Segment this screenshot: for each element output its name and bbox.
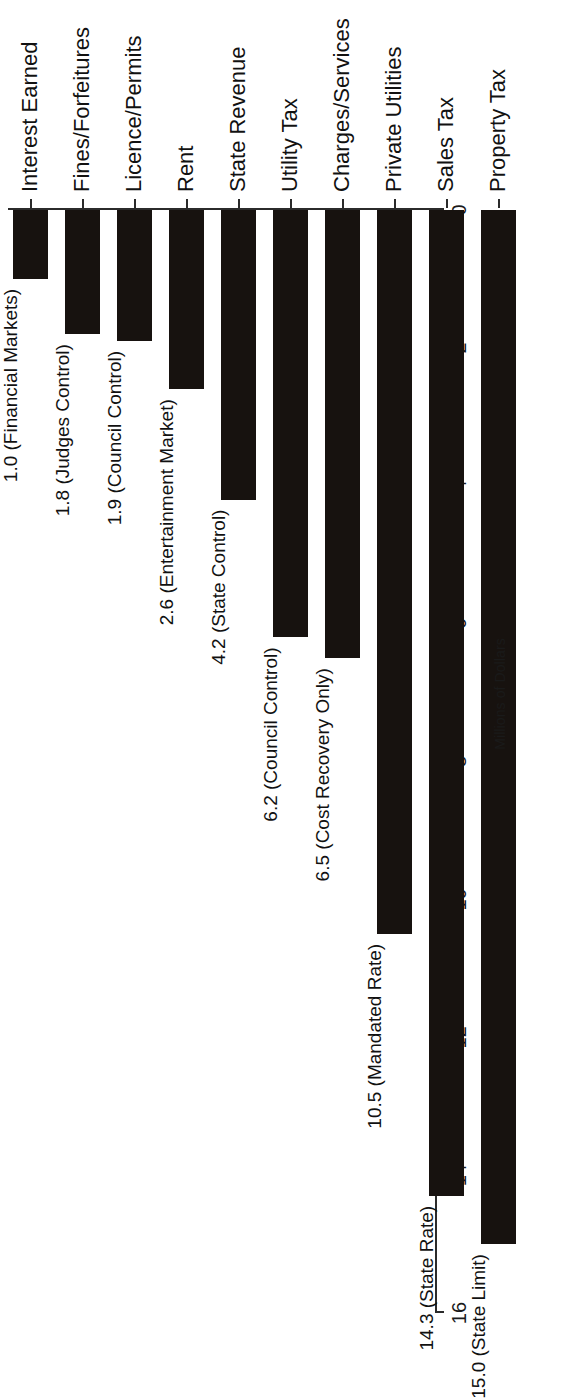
bar [169, 210, 204, 389]
bar-value-label: 14.3 (State Rate) [416, 1206, 435, 1351]
value-axis-title: Millions of Dollars [492, 0, 508, 1388]
category-label: Private Utilities [383, 47, 405, 192]
bar [429, 210, 464, 1196]
category-label: Licence/Permits [123, 35, 145, 192]
category-tick [186, 199, 188, 208]
bar-value-label: 2.6 (Entertainment Market) [156, 399, 175, 625]
value-tick [435, 1312, 444, 1314]
bar [377, 210, 412, 934]
bar [13, 210, 48, 279]
bar [65, 210, 100, 334]
bar [117, 210, 152, 341]
bar-value-label: 1.8 (Judges Control) [52, 344, 71, 516]
category-label: Rent [175, 146, 197, 192]
bar [273, 210, 308, 637]
category-label: Charges/Services [331, 18, 353, 192]
category-tick [134, 199, 136, 208]
category-tick [238, 199, 240, 208]
bar-value-label: 10.5 (Mandated Rate) [364, 944, 383, 1129]
category-tick [446, 199, 448, 208]
category-label: Fines/Forfeitures [71, 27, 93, 192]
bar-value-label: 4.2 (State Control) [208, 510, 227, 665]
category-label: Utility Tax [279, 98, 301, 192]
category-label: Sales Tax [435, 97, 457, 192]
bar-value-label: 15.0 (State Limit) [468, 1254, 487, 1399]
bar-value-label: 6.5 (Cost Recovery Only) [312, 668, 331, 881]
category-tick [394, 199, 396, 208]
bar [221, 210, 256, 500]
bar-value-label: 6.2 (Council Control) [260, 647, 279, 821]
bar [325, 210, 360, 658]
category-tick [82, 199, 84, 208]
bar-value-label: 1.0 (Financial Markets) [0, 289, 19, 482]
bar-value-label: 1.9 (Council Control) [104, 351, 123, 525]
category-tick [30, 199, 32, 208]
category-tick [290, 199, 292, 208]
category-label: State Revenue [227, 46, 249, 192]
value-tick-label: 16 [449, 1283, 469, 1343]
category-label: Interest Earned [19, 42, 41, 192]
category-tick [342, 199, 344, 208]
